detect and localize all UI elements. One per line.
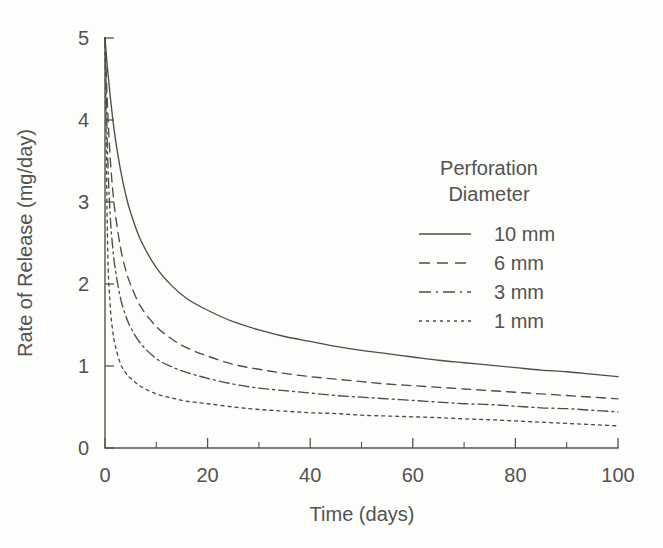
y-axis-title: Rate of Release (mg/day) bbox=[14, 129, 37, 357]
legend-entry-label: 10 mm bbox=[494, 223, 555, 246]
legend-entries: 10 mm6 mm3 mm1 mm bbox=[378, 221, 600, 334]
x-tick-label: 60 bbox=[402, 464, 424, 487]
x-tick-label: 100 bbox=[601, 464, 634, 487]
legend-line-swatch bbox=[418, 227, 472, 241]
legend-line-swatch bbox=[418, 314, 472, 328]
y-tick-label: 1 bbox=[0, 355, 89, 378]
legend-title-line-1: Perforation bbox=[378, 155, 600, 181]
legend: Perforation Diameter 10 mm6 mm3 mm1 mm bbox=[378, 155, 600, 337]
legend-entry-label: 6 mm bbox=[494, 252, 544, 275]
x-tick-label: 20 bbox=[196, 464, 218, 487]
legend-title-line-2: Diameter bbox=[378, 181, 600, 207]
legend-entry: 6 mm bbox=[378, 250, 600, 276]
legend-line-swatch bbox=[418, 256, 472, 270]
y-tick-label: 4 bbox=[0, 109, 89, 132]
legend-entry: 1 mm bbox=[378, 308, 600, 334]
chart-figure: 012345 020406080100 Rate of Release (mg/… bbox=[0, 0, 663, 548]
x-axis-title: Time (days) bbox=[310, 503, 415, 526]
x-tick-label: 40 bbox=[299, 464, 321, 487]
legend-entry-label: 1 mm bbox=[494, 310, 544, 333]
x-tick-label: 80 bbox=[504, 464, 526, 487]
legend-entry: 10 mm bbox=[378, 221, 600, 247]
y-tick-label: 5 bbox=[0, 27, 89, 50]
legend-entry-label: 3 mm bbox=[494, 281, 544, 304]
legend-entry: 3 mm bbox=[378, 279, 600, 305]
y-tick-label: 0 bbox=[0, 437, 89, 460]
legend-line-swatch bbox=[418, 285, 472, 299]
x-tick-label: 0 bbox=[99, 464, 110, 487]
